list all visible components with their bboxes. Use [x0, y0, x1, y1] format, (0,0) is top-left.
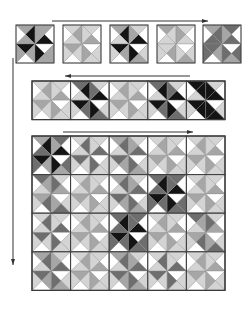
- grid-block-1: [32, 136, 71, 175]
- arrowhead-icon: [65, 74, 71, 78]
- arrow-grid-right: [63, 130, 193, 134]
- grid-block-14: [148, 213, 187, 252]
- strip-block-1: [32, 81, 71, 120]
- arrowhead-icon: [187, 130, 193, 134]
- grid-block-3: [109, 136, 148, 175]
- strip-block-3: [109, 81, 148, 120]
- arrowhead-icon: [202, 19, 208, 23]
- strip-block-5: [186, 81, 225, 120]
- quilt-diagram: [0, 0, 249, 311]
- grid-block-6: [32, 175, 71, 214]
- row1-block-2: [63, 25, 101, 63]
- strip-block-4: [148, 81, 187, 120]
- arrowhead-icon: [11, 259, 15, 265]
- arrow-top-right: [52, 19, 208, 23]
- grid-block-9: [148, 175, 187, 214]
- grid-block-11: [32, 213, 71, 252]
- grid-block-2: [71, 136, 110, 175]
- sewn-strip: [32, 81, 225, 120]
- grid-block-12: [71, 213, 110, 252]
- arrow-strip-left: [65, 74, 190, 78]
- grid-block-20: [186, 252, 225, 291]
- strip-block-2: [71, 81, 110, 120]
- row1-block-3: [110, 25, 148, 63]
- grid-block-7: [71, 175, 110, 214]
- grid-block-17: [71, 252, 110, 291]
- grid-block-10: [186, 175, 225, 214]
- row1-block-1: [16, 25, 54, 63]
- row-1-blocks: [16, 25, 241, 63]
- grid-block-16: [32, 252, 71, 291]
- grid-block-4: [148, 136, 187, 175]
- arrow-left-down: [11, 58, 15, 265]
- grid-block-8: [109, 175, 148, 214]
- row1-block-5: [203, 25, 241, 63]
- grid-block-15: [186, 213, 225, 252]
- row1-block-4: [157, 25, 195, 63]
- grid-block-5: [186, 136, 225, 175]
- quilt-grid: [32, 136, 225, 290]
- grid-block-13: [109, 213, 148, 252]
- grid-block-18: [109, 252, 148, 291]
- grid-block-19: [148, 252, 187, 291]
